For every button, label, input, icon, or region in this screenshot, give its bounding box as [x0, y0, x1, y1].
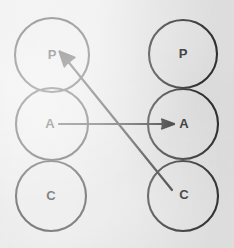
- node-right-p-label: P: [179, 46, 188, 61]
- node-left-a-label: A: [45, 116, 55, 131]
- diagram-svg: P A C P A C: [0, 0, 234, 248]
- diagram-canvas: P A C P A C: [0, 0, 234, 248]
- right-column-group: P A C: [148, 20, 218, 231]
- node-left-c-label: C: [46, 188, 56, 203]
- node-right-a-label: A: [179, 116, 189, 131]
- node-right-c-label: C: [179, 187, 189, 202]
- node-left-p-label: P: [48, 47, 57, 62]
